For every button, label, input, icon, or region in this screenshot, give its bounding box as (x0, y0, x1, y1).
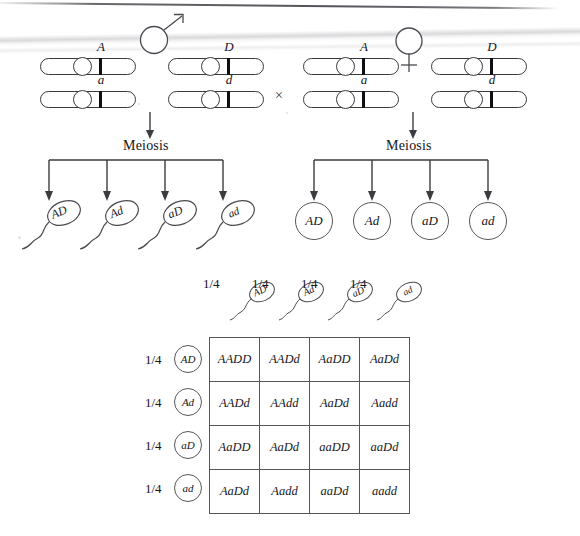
row-fraction-3: 1/4 (145, 481, 162, 497)
gene-locus-band (227, 91, 230, 108)
allele-label: a (353, 73, 375, 87)
punnett-cell: AaDd (310, 382, 360, 426)
table-row: AaDD AaDd aaDD aaDd (210, 426, 410, 470)
punnett-egg-header-Ad: Ad (174, 388, 202, 416)
chromosome-female-A: A (303, 58, 399, 75)
punnett-egg-header-AD: AD (174, 345, 202, 373)
male-meiosis-label: Meiosis (123, 138, 169, 154)
allele-label: A (353, 40, 375, 54)
egg-genotype-label: AD (305, 213, 322, 229)
chromosome-female-D: D (431, 58, 527, 75)
gene-locus-band (490, 91, 493, 108)
male-meiosis-branching (20, 158, 250, 206)
scan-speck (138, 103, 140, 105)
egg-cell-AD: AD (295, 202, 333, 240)
row-fraction-2: 1/4 (145, 438, 162, 454)
punnett-cell: aaDD (310, 426, 360, 470)
punnett-cell: AaDd (260, 426, 310, 470)
centromere-icon (464, 90, 483, 109)
allele-label: D (481, 40, 503, 54)
table-row: AADD AADd AaDD AaDd (210, 338, 410, 382)
punnett-cell: AaDD (210, 426, 260, 470)
egg-genotype-label: aD (181, 439, 194, 451)
table-row: AADd AAdd AaDd Aadd (210, 382, 410, 426)
chromosome-male-D: D (168, 58, 264, 75)
egg-cell-Ad: Ad (353, 202, 391, 240)
punnett-cell: AADD (210, 338, 260, 382)
column-fraction-1: 1/4 (252, 276, 269, 292)
allele-label: a (90, 73, 112, 87)
gene-locus-band (99, 91, 102, 108)
punnett-cell: aaDd (310, 470, 360, 514)
female-meiosis-branching (290, 158, 520, 206)
egg-genotype-label: AD (181, 353, 196, 365)
punnett-cell: AaDd (360, 338, 410, 382)
row-fraction-1: 1/4 (145, 395, 162, 411)
scan-edge-artifact (0, 2, 560, 9)
egg-cell-aD: aD (411, 202, 449, 240)
punnett-cell: aaDd (360, 426, 410, 470)
centromere-icon (201, 90, 220, 109)
allele-label: d (481, 73, 503, 87)
punnett-cell: Aadd (260, 470, 310, 514)
row-fraction-0: 1/4 (145, 352, 162, 368)
female-meiosis-label: Meiosis (386, 138, 432, 154)
punnett-cell: AAdd (260, 382, 310, 426)
allele-label: d (218, 73, 240, 87)
egg-genotype-label: ad (482, 213, 495, 229)
punnett-cell: Aadd (360, 382, 410, 426)
centromere-icon (73, 90, 92, 109)
column-fraction-3: 1/4 (350, 276, 367, 292)
centromere-icon (336, 90, 355, 109)
male-sex-symbol (136, 10, 196, 56)
chromosome-female-a: a (303, 91, 399, 108)
punnett-cell: AaDD (310, 338, 360, 382)
punnett-cell: AADd (260, 338, 310, 382)
scan-speck (286, 112, 288, 114)
chromosome-female-d: d (431, 91, 527, 108)
chromosome-male-a: a (40, 91, 136, 108)
punnett-egg-header-aD: aD (174, 431, 202, 459)
punnett-cell: AADd (210, 382, 260, 426)
column-fraction-0: 1/4 (203, 276, 220, 292)
cross-symbol: × (275, 88, 283, 104)
egg-genotype-label: Ad (365, 213, 379, 229)
punnett-sperm-header-ad: ad (375, 282, 427, 322)
chromosome-male-d: d (168, 91, 264, 108)
gene-locus-band (362, 91, 365, 108)
punnett-square: AADD AADd AaDD AaDd AADd AAdd AaDd Aadd … (209, 337, 410, 514)
column-fraction-2: 1/4 (301, 276, 318, 292)
sperm-cell-ad: ad (192, 200, 262, 252)
egg-genotype-label: aD (422, 213, 438, 229)
punnett-egg-header-ad: ad (174, 474, 202, 502)
allele-label: A (90, 40, 112, 54)
punnett-cell: AaDd (210, 470, 260, 514)
male-meiosis-arrow (140, 112, 160, 140)
egg-cell-ad: ad (469, 202, 507, 240)
allele-label: D (218, 40, 240, 54)
egg-genotype-label: ad (183, 482, 194, 494)
female-meiosis-arrow (403, 112, 423, 140)
egg-genotype-label: Ad (182, 396, 194, 408)
chromosome-male-A: A (40, 58, 136, 75)
punnett-cell: aadd (360, 470, 410, 514)
table-row: AaDd Aadd aaDd aadd (210, 470, 410, 514)
